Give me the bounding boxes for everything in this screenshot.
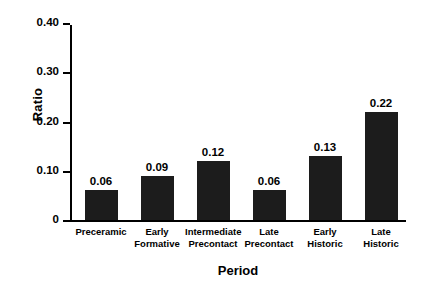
bar: 0.09 <box>141 176 174 220</box>
bar: 0.06 <box>253 190 286 220</box>
y-axis-line <box>70 25 72 222</box>
x-category-label-line: Precontact <box>241 238 297 250</box>
bar: 0.12 <box>197 161 230 220</box>
x-category-label-line: Precontact <box>185 238 241 250</box>
plot-area: 00.100.200.300.40 0.060.090.120.060.130.… <box>70 25 406 222</box>
y-axis-title: Ratio <box>30 70 45 140</box>
bar-value-label: 0.06 <box>258 175 280 187</box>
x-category-label: EarlyFormative <box>129 226 185 249</box>
y-tick-label: 0.40 <box>37 16 59 28</box>
x-category-label: IntermediatePrecontact <box>185 226 241 249</box>
x-category-label: Preceramic <box>73 226 129 238</box>
x-category-label-line: Intermediate <box>185 226 241 238</box>
x-category-label: LatePrecontact <box>241 226 297 249</box>
x-category-label-line: Formative <box>129 238 185 250</box>
x-category-label-line: Preceramic <box>73 226 129 238</box>
y-tick-label: 0 <box>53 213 59 225</box>
bar-value-label: 0.09 <box>146 161 168 173</box>
bar: 0.13 <box>309 156 342 220</box>
bar-value-label: 0.22 <box>370 97 392 109</box>
y-tick-mark <box>63 23 70 25</box>
x-category-label-line: Late <box>241 226 297 238</box>
bar-value-label: 0.06 <box>90 175 112 187</box>
bar: 0.22 <box>365 112 398 220</box>
x-category-label-line: Early <box>297 226 353 238</box>
x-category-label: LateHistoric <box>353 226 409 249</box>
x-category-label-line: Historic <box>297 238 353 250</box>
y-tick-mark <box>63 220 70 222</box>
x-axis-line <box>70 220 406 222</box>
x-category-label: EarlyHistoric <box>297 226 353 249</box>
y-tick-label: 0.20 <box>37 115 59 127</box>
bar: 0.06 <box>85 190 118 220</box>
y-tick-mark <box>63 72 70 74</box>
x-category-label-line: Historic <box>353 238 409 250</box>
bar-chart-figure: Ratio 00.100.200.300.40 0.060.090.120.06… <box>0 0 424 291</box>
y-tick-label: 0.30 <box>37 65 59 77</box>
bar-value-label: 0.13 <box>314 141 336 153</box>
x-category-label-line: Late <box>353 226 409 238</box>
y-tick-label: 0.10 <box>37 164 59 176</box>
x-category-label-line: Early <box>129 226 185 238</box>
bar-value-label: 0.12 <box>202 146 224 158</box>
y-tick-mark <box>63 122 70 124</box>
y-tick-mark <box>63 171 70 173</box>
x-axis-title: Period <box>70 263 406 278</box>
